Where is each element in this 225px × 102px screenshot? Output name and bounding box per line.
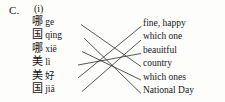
hanzi-character: 国 <box>32 82 43 95</box>
list-item[interactable]: 哪 ge <box>32 15 94 28</box>
pinyin-text: xiē <box>45 43 57 56</box>
section-label: C. <box>9 4 20 16</box>
list-item[interactable]: 美 lì <box>32 55 94 68</box>
list-item[interactable]: which ones <box>143 71 225 84</box>
list-item[interactable]: which one <box>143 30 225 43</box>
list-item[interactable]: fine, happy <box>143 17 225 30</box>
pinyin-text: ge <box>45 16 54 29</box>
hanzi-character: 哪 <box>32 42 43 55</box>
matching-exercise: C. (i) 哪 ge 国 qìng 哪 xiē 美 lì 美 好 国 jiā … <box>0 0 225 102</box>
pinyin-text: 好 <box>45 70 55 83</box>
list-item[interactable]: National Day <box>143 84 225 97</box>
chinese-terms-column: 哪 ge 国 qìng 哪 xiē 美 lì 美 好 国 jiā <box>32 15 94 95</box>
hanzi-character: 美 <box>32 55 43 68</box>
list-item[interactable]: 国 qìng <box>32 28 94 41</box>
english-meanings-column: fine, happy which one beauitful country … <box>143 17 225 97</box>
list-item[interactable]: 哪 xiē <box>32 42 94 55</box>
list-item[interactable]: country <box>143 57 225 70</box>
list-item[interactable]: 国 jiā <box>32 82 94 95</box>
list-item[interactable]: 美 好 <box>32 69 94 82</box>
hanzi-character: 国 <box>32 28 43 41</box>
list-item[interactable]: beauitful <box>143 44 225 57</box>
part-label: (i) <box>34 3 43 14</box>
hanzi-character: 美 <box>32 69 43 82</box>
hanzi-character: 哪 <box>32 15 43 28</box>
pinyin-text: jiā <box>45 83 55 96</box>
pinyin-text: qìng <box>45 29 62 42</box>
pinyin-text: lì <box>45 56 50 69</box>
